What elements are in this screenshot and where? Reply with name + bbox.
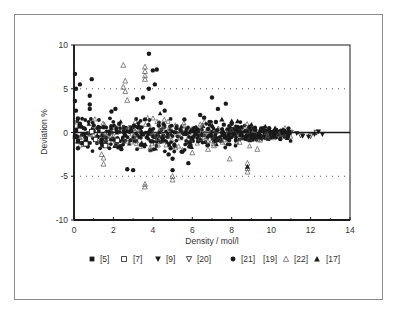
legend-label: [19] xyxy=(263,254,277,264)
open-triangle-marker xyxy=(227,156,232,161)
filled-circle-marker xyxy=(235,127,239,131)
filled-circle-marker xyxy=(170,168,174,172)
filled-circle-marker xyxy=(183,143,187,147)
filled-circle-marker xyxy=(182,132,186,136)
filled-circle-marker xyxy=(91,149,95,153)
filled-circle-marker xyxy=(149,139,153,143)
filled-circle-marker xyxy=(223,146,227,150)
open-triangle-marker xyxy=(93,117,97,121)
filled-circle-marker xyxy=(88,107,92,111)
y-tick-label: 0 xyxy=(63,128,68,138)
filled-circle-marker xyxy=(119,147,123,151)
filled-circle-marker xyxy=(153,82,157,86)
filled-circle-marker xyxy=(147,87,151,91)
filled-circle-marker xyxy=(231,132,235,136)
x-tick-label: 2 xyxy=(111,225,116,235)
filled-circle-marker xyxy=(88,141,92,145)
filled-circle-marker xyxy=(97,118,101,122)
open-triangle-marker xyxy=(123,78,128,83)
open-square-marker xyxy=(115,138,119,142)
filled-circle-marker xyxy=(234,139,238,143)
legend-item: [9] xyxy=(155,254,175,264)
filled-triangle-marker xyxy=(229,118,234,123)
filled-square-marker xyxy=(82,132,86,136)
filled-circle-marker xyxy=(82,126,86,130)
filled-circle-marker xyxy=(147,123,151,127)
filled-circle-marker xyxy=(289,139,293,143)
filled-circle-marker xyxy=(190,136,194,140)
filled-circle-marker xyxy=(186,125,190,129)
filled-circle-marker xyxy=(147,52,151,56)
y-tick-label: -5 xyxy=(60,171,68,181)
legend-item: [5] xyxy=(90,254,110,264)
data-points xyxy=(73,52,325,189)
open-triangle-marker xyxy=(245,122,249,126)
open-triangle-marker xyxy=(190,150,195,155)
open-triangle-marker xyxy=(162,117,166,121)
open-triangle-marker xyxy=(121,62,126,67)
filled-circle-marker xyxy=(174,126,178,130)
filled-circle-marker xyxy=(135,97,139,101)
x-axis-title: Density / mol/l xyxy=(185,236,238,246)
filled-circle-marker xyxy=(115,128,119,132)
legend-item: [7] xyxy=(122,254,143,264)
open-triangle-marker xyxy=(143,76,148,81)
legend-item: [21] xyxy=(231,254,256,264)
filled-circle-marker xyxy=(206,127,210,131)
filled-circle-marker xyxy=(161,137,165,141)
filled-circle-marker xyxy=(151,68,155,72)
filled-circle-marker xyxy=(145,136,149,140)
open-triangle-marker xyxy=(121,84,126,89)
open-square-marker xyxy=(93,137,97,141)
x-tick-label: 14 xyxy=(345,225,355,235)
filled-circle-marker xyxy=(269,131,273,135)
filled-circle-marker xyxy=(202,115,206,119)
open-square-marker xyxy=(122,257,127,262)
filled-circle-marker xyxy=(137,121,141,125)
filled-circle-marker xyxy=(76,116,80,120)
filled-circle-marker xyxy=(163,149,167,153)
filled-circle-marker xyxy=(178,128,182,132)
open-square-marker xyxy=(84,142,88,146)
filled-circle-marker xyxy=(198,113,202,117)
filled-circle-marker xyxy=(257,134,261,138)
filled-circle-marker xyxy=(138,135,142,139)
legend: [5][7][9][20][21][19][22][17] xyxy=(90,254,341,264)
filled-circle-marker xyxy=(140,131,144,135)
legend-label: [20] xyxy=(197,254,211,264)
x-tick-label: 12 xyxy=(306,225,316,235)
open-triangle-marker xyxy=(176,144,180,148)
filled-circle-marker xyxy=(170,157,174,161)
open-square-marker xyxy=(90,129,94,133)
legend-label: [7] xyxy=(133,254,142,264)
filled-circle-marker xyxy=(109,109,113,113)
x-tick-label: 8 xyxy=(229,225,234,235)
filled-down-triangle-marker xyxy=(320,132,325,137)
filled-circle-marker xyxy=(172,150,176,154)
filled-circle-marker xyxy=(210,95,214,99)
filled-circle-marker xyxy=(226,135,230,139)
filled-circle-marker xyxy=(123,133,127,137)
filled-circle-marker xyxy=(180,150,184,154)
filled-circle-marker xyxy=(131,168,135,172)
filled-circle-marker xyxy=(125,167,129,171)
filled-circle-marker xyxy=(216,107,220,111)
open-triangle-marker xyxy=(125,97,130,102)
filled-circle-marker xyxy=(172,143,176,147)
filled-circle-marker xyxy=(117,122,121,126)
filled-circle-marker xyxy=(101,125,105,129)
filled-circle-marker xyxy=(214,120,218,124)
filled-circle-marker xyxy=(204,122,208,126)
filled-square-marker xyxy=(90,257,95,262)
y-tick-label: 10 xyxy=(59,40,69,50)
legend-item: [17] xyxy=(314,254,340,264)
filled-circle-marker xyxy=(222,122,226,126)
scatter-chart: 02468101214-10-50510 Density / mol/l Dev… xyxy=(0,0,398,309)
filled-circle-marker xyxy=(192,126,196,130)
filled-circle-marker xyxy=(83,118,87,122)
legend-label: [5] xyxy=(100,254,109,264)
filled-circle-marker xyxy=(174,139,178,143)
filled-circle-marker xyxy=(249,136,253,140)
legend-label: [22] xyxy=(294,254,308,264)
open-square-marker xyxy=(103,143,107,147)
